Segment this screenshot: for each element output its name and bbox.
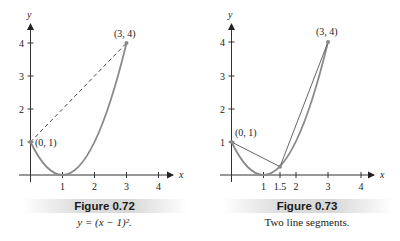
y-tick-2: 2 — [220, 104, 225, 115]
x-tick-1: 1 — [60, 181, 65, 192]
point-1-5 — [278, 165, 282, 169]
parabola-curve — [232, 42, 329, 175]
x-axis-label: x — [379, 169, 385, 180]
y-tick-4: 4 — [19, 38, 24, 49]
point-label-3-4: (3, 4) — [316, 26, 338, 38]
point-0-1 — [230, 140, 234, 144]
x-tick-4: 4 — [156, 181, 161, 192]
point-label-3-4: (3, 4) — [114, 28, 136, 40]
point-3-4 — [326, 40, 330, 44]
x-tick-4: 4 — [359, 181, 364, 192]
y-tick-1: 1 — [19, 137, 24, 148]
x-tick-1: 1 — [261, 181, 266, 192]
y-axis-label: y — [26, 9, 32, 20]
x-tick-1-5: 1.5 — [274, 181, 287, 192]
y-tick-2: 2 — [19, 104, 24, 115]
figure-subtitle-0-73: Two line segments. — [222, 216, 392, 228]
point-0-1 — [29, 140, 33, 144]
x-tick-2: 2 — [294, 181, 299, 192]
chart-figure-0-72: x y 1 2 3 4 1 2 3 4 (0, 1) (3, 4) — [19, 9, 184, 192]
y-tick-3: 3 — [220, 71, 225, 82]
two-line-segments — [232, 42, 329, 167]
point-label-0-1: (0, 1) — [235, 127, 257, 139]
figure-subtitle-0-72: y = (x − 1)². — [22, 216, 187, 228]
figure-title-0-73: Figure 0.73 — [222, 199, 392, 213]
x-tick-3: 3 — [326, 181, 331, 192]
y-tick-1: 1 — [220, 137, 225, 148]
y-tick-3: 3 — [19, 71, 24, 82]
parabola-curve — [31, 43, 127, 175]
x-axis-label: x — [178, 169, 184, 180]
chart-figure-0-73: x y 1 1.5 2 3 4 1 2 3 4 (0, 1) (3, — [220, 9, 385, 192]
y-axis-label: y — [227, 9, 233, 20]
figure-title-0-72: Figure 0.72 — [22, 199, 187, 213]
x-tick-2: 2 — [92, 181, 97, 192]
y-tick-4: 4 — [220, 37, 225, 48]
point-3-4 — [125, 41, 129, 45]
x-tick-3: 3 — [124, 181, 129, 192]
secant-dashed-line — [31, 43, 127, 142]
point-label-0-1: (0, 1) — [35, 137, 57, 149]
